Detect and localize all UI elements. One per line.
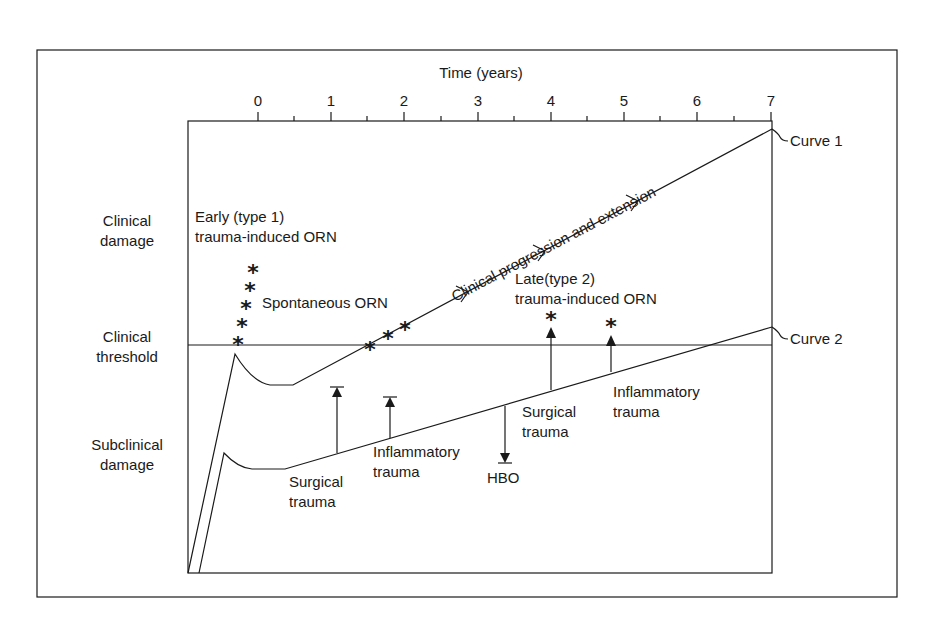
arrow-down-icon	[500, 453, 510, 463]
curve-2-connector	[772, 327, 788, 339]
tick-label-5: 5	[620, 92, 628, 109]
early-label-2: trauma-induced ORN	[195, 228, 337, 245]
spontaneous-orn-stars: * * *	[364, 317, 411, 362]
surgical-trauma-label-2b: trauma	[522, 423, 569, 440]
inflammatory-trauma-arrow-2	[606, 335, 616, 372]
axis-title: Time (years)	[439, 64, 523, 81]
asterisk-icon: *	[364, 337, 376, 362]
plot-box	[188, 121, 772, 573]
asterisk-icon: *	[399, 317, 411, 342]
surgical-trauma-arrow-1	[330, 387, 344, 453]
label-threshold-1: Clinical	[103, 328, 151, 345]
arrow-up-icon	[332, 387, 342, 397]
surgical-trauma-label-1b: trauma	[289, 493, 336, 510]
early-label-1: Early (type 1)	[195, 208, 284, 225]
surgical-trauma-arrow-2	[546, 327, 556, 390]
tick-label-4: 4	[547, 92, 555, 109]
label-threshold-2: threshold	[96, 348, 158, 365]
inflammatory-trauma-label-1a: Inflammatory	[373, 443, 460, 460]
outer-frame	[37, 50, 897, 597]
hbo-label: HBO	[487, 469, 520, 486]
arrow-up-icon	[385, 397, 395, 407]
early-orn-stars: * * * * *	[232, 260, 259, 357]
orn-diagram: Time (years) 0 1 2 3 4 5 6 7 Clinical da…	[0, 0, 929, 630]
late-label-2: trauma-induced ORN	[515, 290, 657, 307]
surgical-trauma-label-2a: Surgical	[522, 403, 576, 420]
tick-label-1: 1	[327, 92, 335, 109]
y-region-labels: Clinical damage Clinical threshold Subcl…	[91, 212, 163, 473]
hbo-arrow	[498, 406, 512, 463]
asterisk-icon: *	[545, 307, 557, 332]
inflammatory-trauma-label-2a: Inflammatory	[613, 383, 700, 400]
label-subclinical-1: Subclinical	[91, 436, 163, 453]
curve-2	[199, 327, 772, 573]
label-clinical-damage-1: Clinical	[103, 212, 151, 229]
inflammatory-trauma-arrow-1	[383, 397, 397, 438]
inflammatory-trauma-label-2b: trauma	[613, 403, 660, 420]
tick-label-6: 6	[693, 92, 701, 109]
x-tick-labels: 0 1 2 3 4 5 6 7	[254, 92, 775, 109]
tick-label-2: 2	[400, 92, 408, 109]
tick-label-0: 0	[254, 92, 262, 109]
asterisk-icon: *	[232, 332, 244, 357]
x-ticks	[258, 112, 771, 121]
curve-2-label: Curve 2	[790, 330, 843, 347]
late-label-1: Late(type 2)	[515, 270, 595, 287]
curve-1	[188, 129, 772, 573]
tick-label-7: 7	[767, 92, 775, 109]
label-subclinical-2: damage	[100, 456, 154, 473]
curve-1-connector	[772, 129, 788, 141]
asterisk-icon: *	[382, 326, 394, 351]
spontaneous-orn-label: Spontaneous ORN	[262, 294, 388, 311]
curve-1-label: Curve 1	[790, 132, 843, 149]
label-clinical-damage-2: damage	[100, 232, 154, 249]
asterisk-icon: *	[605, 314, 617, 339]
tick-label-3: 3	[474, 92, 482, 109]
inflammatory-trauma-label-1b: trauma	[373, 463, 420, 480]
surgical-trauma-label-1a: Surgical	[289, 473, 343, 490]
